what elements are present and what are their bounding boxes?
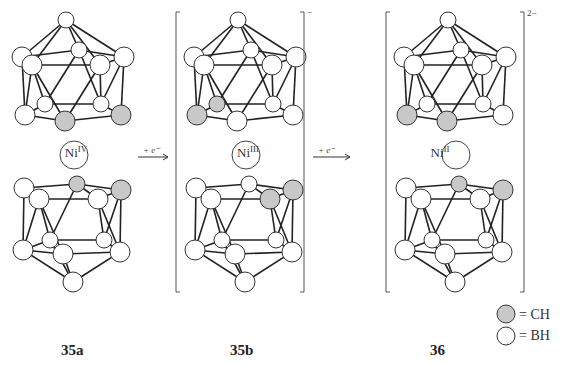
cage-top-35a-bond	[45, 50, 79, 104]
cage-top-36-bh-vertex	[493, 105, 513, 125]
cage-bottom-35a-bh-vertex	[53, 244, 73, 264]
arrow-label-2: + e⁻	[318, 145, 335, 155]
cage-bottom-35a-ch-vertex	[111, 180, 131, 200]
cluster-diagram	[0, 0, 565, 365]
cage-bottom-36-bh-vertex	[445, 272, 465, 292]
compound-label-35a: 35a	[61, 342, 84, 359]
cage-bottom-36-bh-vertex	[470, 189, 490, 209]
cage-top-35b-bh-vertex	[286, 47, 306, 67]
cage-bottom-35a-bh-vertex	[96, 232, 112, 248]
cage-bottom-35b-bh-vertex	[225, 244, 245, 264]
cage-top-36-ch-vertex	[437, 111, 457, 131]
cage-top-35b-bh-vertex	[265, 96, 281, 112]
compound-label-36: 36	[430, 342, 445, 359]
cage-bottom-35a-bh-vertex	[88, 189, 108, 209]
cage-top-35a-bh-vertex	[114, 47, 134, 67]
cage-bottom-35b-bh-vertex	[214, 232, 230, 248]
cage-bottom-35b-bh-vertex	[235, 272, 255, 292]
cage-bottom-35a-bh-vertex	[42, 232, 58, 248]
cage-top-35a-bh-vertex	[90, 55, 110, 75]
bracket-36-right	[520, 12, 524, 292]
cage-top-36-bh-vertex	[419, 96, 435, 112]
cage-bottom-36-ch-vertex	[493, 180, 513, 200]
cage-bottom-35a-bh-vertex	[63, 272, 83, 292]
cage-bottom-35b-bh-vertex	[282, 242, 302, 262]
cage-top-36-bh-vertex	[475, 96, 491, 112]
arrow-label-1: + e⁻	[143, 145, 160, 155]
cage-bottom-35b-bh-vertex	[185, 240, 205, 260]
cage-top-35a-ch-vertex	[55, 111, 75, 131]
cage-top-35b-bh-vertex	[243, 42, 259, 58]
cage-top-36-ch-vertex	[397, 105, 417, 125]
charge-35b: −	[307, 7, 312, 17]
cage-bottom-35b-ch-vertex	[260, 189, 280, 209]
cage-bottom-35b-bh-vertex	[201, 189, 221, 209]
cage-top-35a-ch-vertex	[111, 105, 131, 125]
compound-label-35b: 35b	[230, 342, 253, 359]
cage-bottom-35a-bh-vertex	[29, 189, 49, 209]
cage-bottom-36-ch-vertex	[451, 176, 467, 192]
ni-label-36: NiII	[420, 144, 460, 161]
cage-bottom-35b-bond	[222, 184, 249, 240]
ni-label-35b: NiIII	[228, 144, 268, 161]
cage-bottom-35b-bh-vertex	[268, 232, 284, 248]
cage-top-35b-ch-vertex	[187, 105, 207, 125]
cage-bottom-36-bh-vertex	[411, 189, 431, 209]
legend-ch-swatch	[497, 305, 515, 323]
cage-top-36-bh-vertex	[453, 42, 469, 58]
cage-bottom-35b-ch-vertex	[283, 180, 303, 200]
figure: NiIV NiIII NiII + e⁻ + e⁻ − 2− 35a 35b 3…	[0, 0, 565, 365]
cage-bottom-35a-bh-vertex	[13, 240, 33, 260]
cage-top-35b-bh-vertex	[227, 111, 247, 131]
cage-bottom-36-bh-vertex	[478, 232, 494, 248]
cage-top-35a-bh-vertex	[22, 55, 42, 75]
cage-bottom-35a-bh-vertex	[110, 242, 130, 262]
cage-top-36-bh-vertex	[472, 55, 492, 75]
cage-top-35a-bh-vertex	[15, 105, 35, 125]
cage-bottom-36-bh-vertex	[395, 240, 415, 260]
legend-bh-swatch	[497, 327, 515, 345]
ni-label-35a: NiIV	[56, 144, 96, 161]
cage-top-35b-bh-vertex	[283, 105, 303, 125]
cage-top-35a-bh-vertex	[58, 12, 74, 28]
cage-bottom-36-bh-vertex	[424, 232, 440, 248]
cage-bottom-36-bh-vertex	[492, 242, 512, 262]
cage-top-35b-bh-vertex	[262, 55, 282, 75]
cage-top-35b-ch-vertex	[209, 96, 225, 112]
cage-top-36-bh-vertex	[496, 47, 516, 67]
cage-top-35a-bh-vertex	[93, 96, 109, 112]
cage-top-35b-bh-vertex	[230, 12, 246, 28]
cage-bottom-36-bh-vertex	[435, 244, 455, 264]
cage-top-35b-bond	[217, 50, 251, 104]
cage-top-36-bh-vertex	[404, 55, 424, 75]
cage-bottom-35a-bond	[50, 184, 77, 240]
cage-top-35b-bh-vertex	[194, 55, 214, 75]
legend-ch-text: = CH	[519, 307, 550, 323]
cage-top-36-bond	[427, 50, 461, 104]
charge-36: 2−	[527, 8, 537, 18]
cage-top-36-bh-vertex	[440, 12, 456, 28]
bracket-35b-left	[176, 12, 180, 292]
cage-bottom-36-bond	[432, 184, 459, 240]
cage-top-35a-bh-vertex	[71, 42, 87, 58]
legend-bh-text: = BH	[519, 328, 550, 344]
bracket-36-left	[386, 12, 390, 292]
cage-top-35a-bh-vertex	[37, 96, 53, 112]
cage-bottom-35b-bh-vertex	[241, 176, 257, 192]
cage-bottom-35a-ch-vertex	[69, 176, 85, 192]
